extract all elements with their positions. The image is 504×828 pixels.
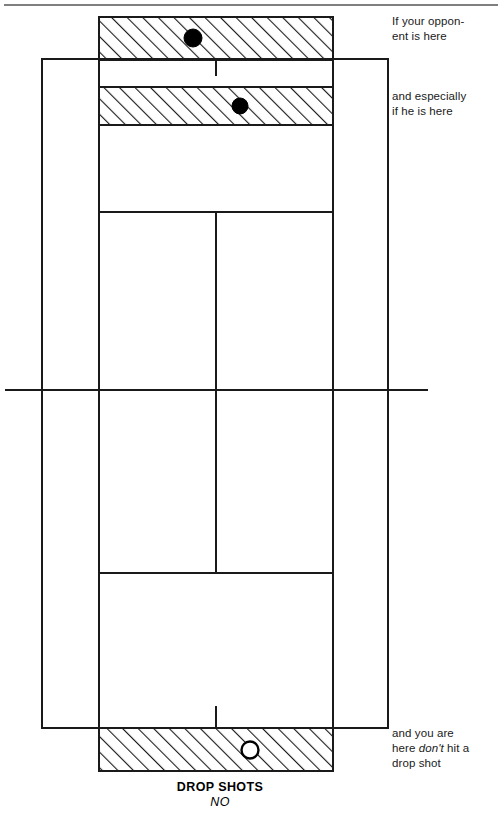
annotation-you-are-here: and you arehere don't hit adrop shot — [392, 726, 502, 771]
figure-caption: DROP SHOTS NO — [0, 780, 440, 809]
annotation-you-line2-b: hit a — [444, 742, 470, 754]
annotation-especially-line2: if he is here — [392, 105, 453, 117]
tennis-court-graphic — [0, 0, 504, 828]
drop-shots-diagram: If your oppon-ent is here and especially… — [0, 0, 504, 828]
opponent-marker-mid — [232, 98, 248, 114]
opponent-marker-far — [184, 29, 202, 47]
annotation-you-line3: drop shot — [392, 757, 441, 769]
annotation-especially: and especiallyif he is here — [392, 89, 500, 119]
annotation-opponent: If your oppon-ent is here — [392, 14, 500, 44]
zone-near-baseline — [99, 728, 333, 771]
zone-far-midcourt — [99, 87, 333, 125]
annotation-opponent-line2: ent is here — [392, 30, 447, 42]
player-marker — [242, 742, 259, 759]
annotation-you-line2-a: here — [392, 742, 419, 754]
annotation-especially-line1: and especially — [392, 90, 466, 102]
caption-title: DROP SHOTS — [0, 780, 440, 794]
zone-far-baseline — [99, 17, 333, 60]
annotation-opponent-line1: If your oppon- — [392, 15, 464, 27]
caption-subtitle: NO — [0, 795, 440, 809]
annotation-you-line1: and you are — [392, 727, 454, 739]
annotation-you-emphasis: don't — [419, 742, 444, 754]
